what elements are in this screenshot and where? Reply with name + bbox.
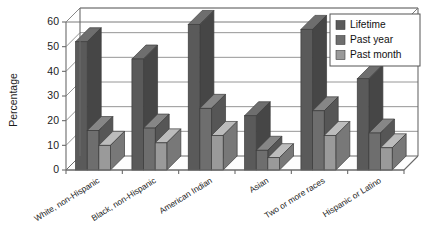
bar-front-face (188, 24, 200, 170)
legend-swatch-lifetime (336, 21, 345, 30)
chart-legend: LifetimePast yearPast month (330, 14, 420, 66)
bar-front-face (132, 59, 144, 170)
bar-front-face (76, 42, 88, 170)
y-tick-label-10: 10 (47, 139, 59, 151)
x-label-asian: Asian (247, 175, 270, 195)
bar-front-face (268, 158, 280, 170)
legend-label-past-year: Past year (350, 34, 394, 45)
bar-front-face (245, 116, 257, 170)
y-axis-title: Percentage (7, 73, 19, 127)
bar-front-face (357, 79, 369, 170)
y-tick-label-40: 40 (47, 65, 59, 77)
x-axis-category-labels: White, non-HispanicBlack, non-HispanicAm… (32, 175, 383, 223)
legend-label-lifetime: Lifetime (350, 19, 386, 30)
bar-front-face (155, 143, 167, 170)
legend-label-past-month: Past month (350, 49, 402, 60)
x-label-hispanic-or-latino: Hispanic or Latino (321, 175, 383, 219)
bar-front-face (99, 145, 111, 170)
x-label-american-indian: American Indian (157, 175, 214, 216)
bar-front-face (381, 148, 393, 170)
bar-front-face (144, 128, 156, 170)
bar-front-face (301, 29, 313, 170)
legend-swatch-past-year (336, 36, 345, 45)
y-axis-labels: 0102030405060 (47, 15, 59, 175)
bar-front-face (324, 135, 336, 170)
y-tick-label-30: 30 (47, 89, 59, 101)
x-label-two-or-more-races: Two or more races (262, 175, 326, 220)
chart-canvas: 0102030405060 Percentage White, non-Hisp… (0, 0, 426, 252)
y-tick-label-20: 20 (47, 114, 59, 126)
bar-front-face (256, 150, 268, 170)
y-tick-label-0: 0 (53, 163, 59, 175)
bar-front-face (369, 133, 381, 170)
bar-front-face (87, 131, 99, 170)
y-tick-label-60: 60 (47, 15, 59, 27)
y-tick-label-50: 50 (47, 40, 59, 52)
bar-front-face (200, 108, 212, 170)
bar-front-face (313, 111, 325, 170)
bar-chart: 0102030405060 Percentage White, non-Hisp… (0, 0, 426, 252)
bar-front-face (212, 135, 224, 170)
legend-swatch-past-month (336, 51, 345, 60)
y-axis-ticks (62, 22, 66, 170)
